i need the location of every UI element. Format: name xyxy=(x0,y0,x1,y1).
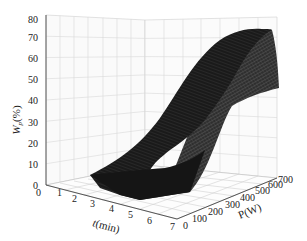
t-tick: 7 xyxy=(170,221,175,232)
p-tick: 100 xyxy=(192,213,207,224)
t-tick: 0 xyxy=(36,187,41,198)
z-tick: 40 xyxy=(28,95,38,106)
t-tick: 6 xyxy=(147,215,152,226)
p-axis-label: P(W) xyxy=(236,201,263,222)
z-tick: 60 xyxy=(28,53,38,64)
z-tick: 20 xyxy=(28,138,38,149)
p-tick: 200 xyxy=(208,206,223,217)
p-tick: 700 xyxy=(278,174,293,185)
p-tick: 400 xyxy=(240,192,255,203)
z-axis-label: Wp(%) xyxy=(10,105,24,134)
t-tick: 1 xyxy=(57,187,62,198)
z-axis-ticks: 0 10 20 30 40 50 60 70 80 xyxy=(28,14,38,191)
z-tick: 80 xyxy=(28,14,38,25)
t-axis-label: t(min) xyxy=(91,216,121,236)
p-tick: 0 xyxy=(183,220,188,231)
t-tick: 5 xyxy=(128,209,133,220)
z-tick: 30 xyxy=(28,117,38,128)
t-tick: 2 xyxy=(72,193,77,204)
z-tick: 10 xyxy=(28,159,38,170)
t-tick: 3 xyxy=(90,198,95,209)
t-tick: 4 xyxy=(109,203,114,214)
surface-chart: 0 10 20 30 40 50 60 70 80 Wp(%) 0 1 2 3 … xyxy=(0,0,307,241)
z-tick: 50 xyxy=(28,74,38,85)
z-tick: 70 xyxy=(28,32,38,43)
